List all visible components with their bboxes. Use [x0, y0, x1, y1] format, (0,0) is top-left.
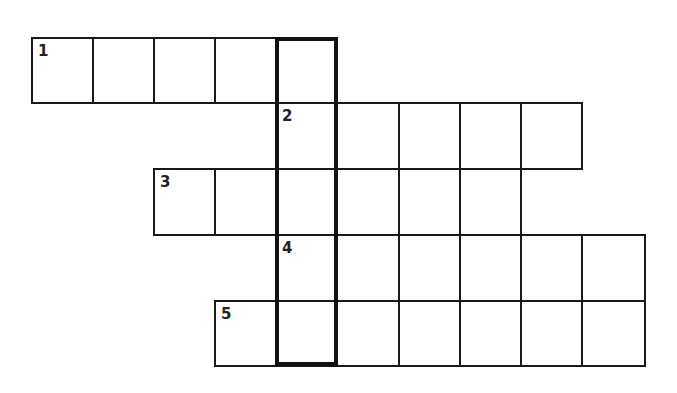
- crossword-cell[interactable]: 4: [275, 234, 338, 302]
- crossword-cell[interactable]: [336, 168, 400, 236]
- crossword-cell[interactable]: [581, 300, 646, 367]
- crossword-cell[interactable]: [459, 102, 522, 170]
- crossword-cell[interactable]: [459, 300, 522, 367]
- crossword-cell[interactable]: [520, 300, 583, 367]
- crossword-cell[interactable]: [336, 234, 400, 302]
- crossword-cell[interactable]: [520, 234, 583, 302]
- crossword-cell[interactable]: [275, 300, 338, 367]
- crossword-cell[interactable]: [398, 300, 461, 367]
- crossword-cell[interactable]: [336, 300, 400, 367]
- crossword-cell[interactable]: 5: [214, 300, 277, 367]
- crossword-cell[interactable]: [398, 102, 461, 170]
- crossword-cell[interactable]: [275, 37, 338, 104]
- crossword-cell[interactable]: [214, 168, 277, 236]
- crossword-cell[interactable]: [275, 168, 338, 236]
- crossword-cell[interactable]: 1: [31, 37, 94, 104]
- crossword-cell[interactable]: [459, 234, 522, 302]
- crossword-cell[interactable]: [459, 168, 522, 236]
- clue-number: 3: [160, 173, 170, 191]
- crossword-cell[interactable]: [153, 37, 216, 104]
- clue-number: 1: [38, 42, 48, 60]
- crossword-cell[interactable]: [398, 234, 461, 302]
- clue-number: 2: [282, 107, 292, 125]
- crossword-cell[interactable]: [581, 234, 646, 302]
- crossword-cell[interactable]: [336, 102, 400, 170]
- crossword-cell[interactable]: 2: [275, 102, 338, 170]
- clue-number: 5: [221, 305, 231, 323]
- crossword-cell[interactable]: [92, 37, 155, 104]
- crossword-cell[interactable]: 3: [153, 168, 216, 236]
- clue-number: 4: [282, 239, 292, 257]
- crossword-cell[interactable]: [214, 37, 277, 104]
- crossword-cell[interactable]: [398, 168, 461, 236]
- crossword-cell[interactable]: [520, 102, 583, 170]
